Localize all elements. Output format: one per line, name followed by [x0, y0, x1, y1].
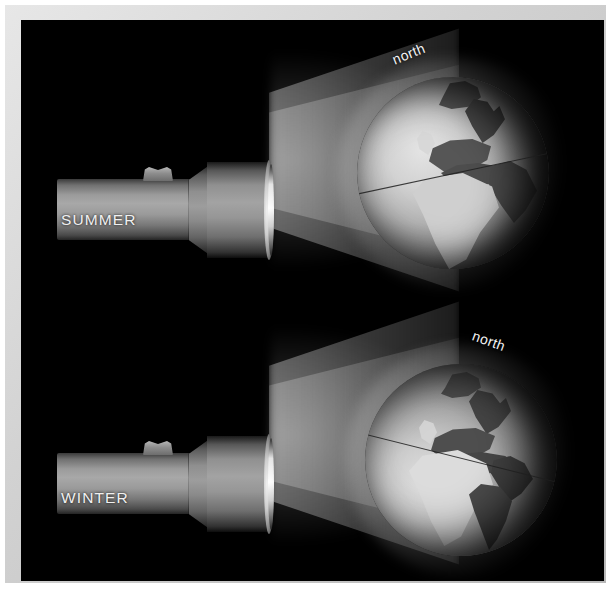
label-season-winter: WINTER: [61, 489, 129, 507]
illustration-seasons-flashlight-globe: north SUMMER: [0, 0, 613, 592]
globe-shadow-terminator: [365, 364, 557, 556]
panel-summer: north SUMMER: [21, 20, 604, 300]
panel-winter: north WINTER: [21, 301, 604, 581]
flashlight-lens: [268, 438, 274, 530]
image-frame: north SUMMER: [5, 5, 606, 583]
label-north-winter: north: [470, 327, 507, 354]
label-season-summer: SUMMER: [61, 211, 137, 229]
flashlight-head: [207, 436, 267, 532]
flashlight-switch[interactable]: [143, 167, 173, 181]
flashlight-lens: [268, 164, 274, 256]
flashlight-head: [207, 162, 267, 258]
globe-sphere: [357, 77, 549, 269]
image-plate: north SUMMER: [21, 20, 604, 581]
flashlight-switch[interactable]: [143, 441, 173, 455]
globe-sphere: [365, 364, 557, 556]
flashlight-barrel: [57, 179, 193, 240]
